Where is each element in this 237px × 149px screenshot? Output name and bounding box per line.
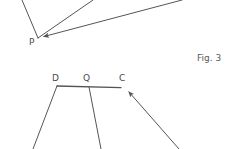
figure-caption: Fig. 3 [197,54,221,63]
leg-q-down [89,87,101,149]
leg-c-incoming [129,92,179,149]
leg-d-down [33,86,57,149]
ray-p-upper-left [22,0,38,38]
vertex-label-d: D [52,74,59,83]
figure-canvas: P D Q C Fig. 3 [0,0,237,149]
ray-p-upper-right [38,0,93,38]
lower-figure [33,86,179,149]
ray-p-shallow-right [44,0,182,37]
vertex-label-c: C [119,74,125,83]
upper-figure [22,0,182,38]
vertex-label-q: Q [83,74,90,83]
vertex-label-p: P [29,38,34,47]
